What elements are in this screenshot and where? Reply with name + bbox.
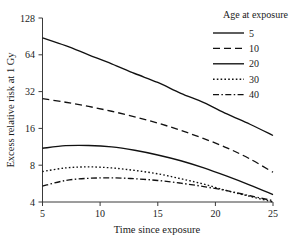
y-tick-label-128: 128 — [20, 13, 35, 24]
legend-label-40: 40 — [249, 89, 259, 100]
chart-canvas: 128 64 32 16 8 4 5 10 15 20 25 Time sinc… — [0, 0, 297, 240]
y-tick-label-4: 4 — [30, 197, 35, 208]
x-tick-label-20: 20 — [210, 208, 220, 219]
legend-label-5: 5 — [249, 28, 254, 39]
series-line-30 — [43, 167, 274, 202]
chart-figure: 128 64 32 16 8 4 5 10 15 20 25 Time sinc… — [0, 0, 297, 240]
x-tick-label-5: 5 — [40, 208, 45, 219]
x-axis-title: Time since exposure — [114, 224, 201, 235]
y-tick-label-8: 8 — [30, 160, 35, 171]
series-line-5 — [43, 38, 274, 136]
x-tick-label-25: 25 — [268, 208, 278, 219]
y-tick-label-16: 16 — [25, 123, 35, 134]
x-tick-label-10: 10 — [95, 208, 105, 219]
legend-label-20: 20 — [249, 58, 259, 69]
legend-label-10: 10 — [249, 43, 259, 54]
y-tick-label-64: 64 — [25, 49, 35, 60]
legend: Age at exposure 510203040 — [213, 9, 289, 100]
legend-label-30: 30 — [249, 74, 259, 85]
legend-items: 510203040 — [213, 28, 259, 101]
legend-title: Age at exposure — [223, 9, 289, 20]
series-layer — [43, 38, 274, 202]
x-axis-ticks — [43, 202, 274, 206]
x-tick-label-15: 15 — [153, 208, 163, 219]
y-axis-ticks — [39, 18, 43, 202]
series-line-10 — [43, 99, 274, 173]
y-axis-title: Excess relative risk at 1 Gy — [5, 52, 16, 168]
y-tick-label-32: 32 — [25, 86, 35, 97]
